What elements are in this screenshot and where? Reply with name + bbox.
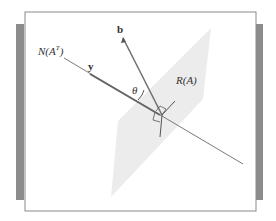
range-label: R(A)	[175, 74, 197, 87]
diagram-canvas: N(AT) y b θ R(A)	[0, 0, 276, 221]
null-space-label: N(AT)	[37, 44, 64, 58]
right-side-bar	[256, 24, 263, 200]
left-side-bar	[16, 24, 24, 200]
theta-label: θ	[132, 84, 138, 96]
b-label: b	[117, 23, 123, 35]
y-label: y	[88, 60, 94, 72]
